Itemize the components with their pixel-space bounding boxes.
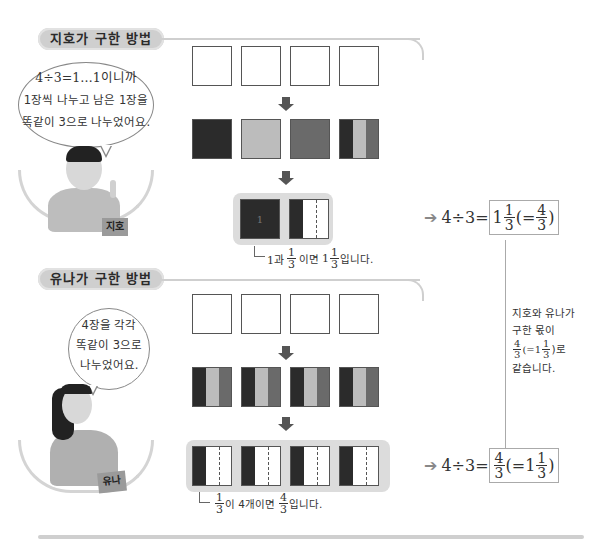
yuna-hair-top: [60, 384, 92, 394]
fraction: 13: [330, 247, 339, 270]
fraction: 13: [504, 203, 515, 232]
section1-result: ➔ 4÷3= 1 13 (= 43 ): [424, 200, 559, 235]
paper-square-split-thirds: [339, 119, 379, 159]
paper-square: [192, 46, 232, 86]
paper-square: [339, 294, 379, 334]
paper-square: [290, 294, 330, 334]
comparison-note: 지호와 유나가 구한 몫이 43 (=1 13 )로 같습니다.: [512, 305, 575, 377]
paper-square-mid: [290, 119, 330, 159]
fraction: 43: [536, 203, 547, 232]
fraction: 13: [536, 451, 547, 480]
paper-square-split-thirds: [192, 367, 232, 407]
jiho-speech-bubble: 4÷3=1…1이니까 1장씩 나누고 남은 1장을 똑같이 3으로 나누었어요.: [18, 62, 154, 148]
section1-caption: 1과 13 이면 1 13 입니다.: [267, 247, 373, 270]
paper-square: [192, 294, 232, 334]
caption-text: 입니다.: [340, 251, 373, 266]
section2-result: ➔ 4÷3= 43 (= 1 13 ): [424, 448, 559, 483]
paper-square-third: [241, 446, 281, 486]
down-arrow-icon: [282, 97, 290, 104]
tile-label: 1: [257, 214, 263, 225]
result-expr: 4÷3=: [441, 208, 488, 227]
paper-square-third: [289, 199, 329, 239]
bubble-tail-inner: [101, 145, 111, 155]
fraction: 43: [279, 492, 288, 515]
paper-square-whole: 1: [240, 199, 280, 239]
yuna-speech-bubble: 4장을 각각 똑같이 3으로 나누었어요.: [68, 308, 150, 390]
bubble-line: 4÷3=1…1이니까: [19, 67, 153, 89]
caption-text: 입니다.: [289, 496, 322, 511]
down-arrow-icon: [282, 171, 290, 178]
fraction: 43: [494, 451, 505, 480]
paper-square-split-thirds: [339, 367, 379, 407]
fraction: 13: [215, 492, 224, 515]
fraction: 13: [542, 339, 550, 360]
caption-text: 이면: [299, 251, 319, 266]
caption-text: 1과: [267, 251, 284, 267]
caption-bracket: [199, 492, 210, 503]
bubble-line: 똑같이 3으로: [69, 335, 149, 355]
paper-square: [339, 46, 379, 86]
section2-caption: 13 이 4개이면 43 입니다.: [214, 492, 322, 515]
bubble-line: 4장을 각각: [69, 315, 149, 335]
fraction: 43: [513, 339, 521, 360]
paper-square: [290, 46, 330, 86]
right-arrow-icon: ➔: [424, 208, 437, 227]
paper-square-third: [290, 446, 330, 486]
caption-text: 이 4개이면: [225, 496, 275, 511]
caption-text: 1: [322, 252, 329, 265]
down-arrow-icon: [282, 417, 290, 424]
result-box: 43 (= 1 13 ): [489, 448, 559, 483]
down-arrow-icon: [282, 346, 290, 353]
bubble-line: 똑같이 3으로 나누었어요.: [19, 111, 153, 133]
paper-square-dark: [192, 119, 232, 159]
jiho-name-tag: 지호: [102, 218, 128, 236]
section2-title-curve: [402, 279, 424, 301]
bubble-line: 나누었어요.: [69, 355, 149, 375]
fraction: 13: [287, 247, 296, 270]
result-box: 1 13 (= 43 ): [489, 200, 559, 235]
section1-title-curve: [402, 38, 424, 60]
paper-square-split-thirds: [290, 367, 330, 407]
paper-square: [241, 294, 281, 334]
bottom-divider: [38, 535, 584, 539]
paper-square-third: [192, 446, 232, 486]
jiho-finger: [110, 180, 116, 198]
paper-square-split-thirds: [241, 367, 281, 407]
caption-bracket: [254, 246, 265, 257]
yuna-name-tag: 유나: [97, 471, 127, 494]
jiho-hair: [66, 146, 102, 162]
bubble-line: 1장씩 나누고 남은 1장을: [19, 89, 153, 111]
section1-title-line: [140, 38, 420, 40]
paper-square: [241, 46, 281, 86]
paper-square-light: [241, 119, 281, 159]
section2-title-line: [140, 279, 420, 281]
paper-square-third: [339, 446, 379, 486]
connector-line: [505, 240, 506, 448]
right-arrow-icon: ➔: [424, 456, 437, 475]
result-expr: 4÷3=: [441, 456, 488, 475]
